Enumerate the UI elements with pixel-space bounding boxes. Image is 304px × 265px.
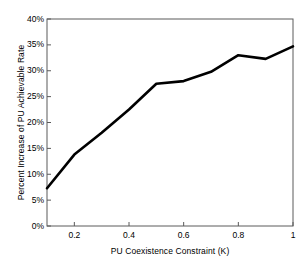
plot-background bbox=[47, 19, 293, 226]
plot-area bbox=[0, 0, 304, 265]
chart-figure: Percent Increase of PU Achievable Rate 0… bbox=[0, 0, 304, 265]
x-axis-title: PU Coexistence Constraint (K) bbox=[47, 246, 293, 256]
